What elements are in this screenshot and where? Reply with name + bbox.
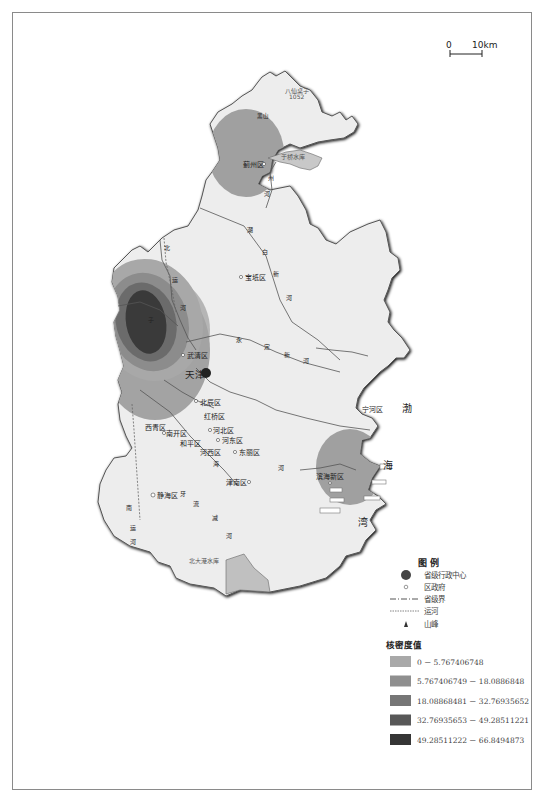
svg-text:静海区: 静海区: [157, 491, 178, 500]
svg-text:蓟州区: 蓟州区: [243, 160, 264, 169]
svg-text:河: 河: [303, 357, 309, 364]
density-range-label: 49.28511222 － 66.8494873: [417, 736, 524, 745]
svg-text:减: 减: [212, 514, 218, 522]
svg-text:南: 南: [126, 504, 132, 511]
map-canvas: 0 10km: [0, 0, 538, 797]
svg-text:永: 永: [236, 336, 242, 343]
svg-text:新: 新: [273, 270, 279, 278]
svg-text:河: 河: [226, 532, 232, 539]
district-hongqiao: 红桥区: [204, 412, 225, 421]
reservoir-yuqiao-label: 于桥水库: [281, 153, 305, 161]
density-swatch: [390, 734, 411, 745]
svg-text:北: 北: [164, 244, 170, 252]
district-nankai: 南开区: [166, 429, 187, 438]
svg-text:运: 运: [172, 276, 178, 284]
svg-text:牙: 牙: [180, 490, 186, 498]
density-class-3: 18.08868481 － 32.76935652: [390, 695, 529, 706]
svg-text:渤: 渤: [402, 402, 412, 414]
district-hebei: 河北区: [208, 427, 234, 435]
scale-distance-label: 10km: [472, 40, 497, 50]
svg-text:西青区: 西青区: [145, 423, 166, 432]
scale-zero-label: 0: [446, 40, 452, 50]
svg-text:河东区: 河东区: [222, 436, 243, 445]
district-ninghe: 宁河区: [362, 405, 383, 414]
density-legend: 0 － 5.7674067485.767406749 － 18.08868481…: [390, 656, 529, 745]
svg-text:海: 海: [383, 459, 393, 471]
svg-text:南开区: 南开区: [166, 429, 187, 438]
density-range-label: 0 － 5.767406748: [417, 658, 484, 667]
legend-item-mountain-peak: 山峰: [404, 619, 439, 629]
density-class-4: 32.76935653 － 49.28511221: [390, 715, 529, 726]
density-range-label: 32.76935653 － 49.28511221: [417, 716, 529, 725]
density-class-1: 0 － 5.767406748: [390, 656, 484, 667]
capital-label: 天津: [185, 369, 205, 380]
svg-text:河: 河: [278, 464, 284, 471]
svg-text:津南区: 津南区: [226, 478, 247, 487]
svg-text:流: 流: [193, 500, 199, 508]
svg-text:宁河区: 宁河区: [362, 405, 383, 414]
legend-item-canal: 运河: [390, 607, 439, 616]
mountain-peak-icon: [404, 621, 408, 627]
svg-text:湾: 湾: [358, 516, 368, 528]
svg-text:山峰: 山峰: [424, 619, 439, 629]
density-class-2: 5.767406749 － 18.0886848: [390, 676, 524, 687]
density-class-5: 49.28511222 － 66.8494873: [390, 734, 524, 745]
district-jinnan: 津南区: [226, 478, 251, 487]
peak-heishan: 黑山: [257, 112, 269, 120]
svg-text:河北区: 河北区: [213, 427, 234, 435]
legend-title: 图 例: [418, 557, 439, 568]
density-swatch: [390, 676, 411, 687]
density-range-label: 5.767406749 － 18.0886848: [417, 677, 524, 686]
svg-text:海: 海: [213, 460, 219, 468]
svg-text:和平区: 和平区: [180, 439, 201, 448]
svg-text:区政府: 区政府: [424, 582, 446, 592]
svg-text:武清区: 武清区: [187, 351, 208, 360]
legend-item-provincial-boundary: 省级界: [390, 594, 446, 604]
svg-text:滨海新区: 滨海新区: [316, 472, 344, 481]
svg-text:红桥区: 红桥区: [204, 412, 225, 421]
scale-bar: 0 10km: [446, 40, 497, 57]
svg-text:北辰区: 北辰区: [200, 399, 221, 407]
svg-text:河: 河: [180, 304, 186, 311]
svg-text:省级行政中心: 省级行政中心: [424, 570, 467, 580]
svg-text:河西区: 河西区: [200, 449, 221, 457]
district-hexi: 河西区: [200, 449, 221, 457]
svg-text:运河: 运河: [424, 607, 439, 616]
svg-text:定: 定: [264, 343, 270, 351]
svg-text:省级界: 省级界: [424, 594, 446, 604]
svg-text:宝坻区: 宝坻区: [245, 273, 266, 282]
svg-text:河: 河: [130, 538, 136, 545]
svg-text:潮: 潮: [247, 226, 253, 234]
district-government-icon: [404, 585, 408, 589]
density-swatch: [390, 715, 411, 726]
district-heping: 和平区: [180, 439, 201, 448]
legend-item-provincial-capital: 省级行政中心: [401, 570, 467, 580]
density-range-label: 18.08868481 － 32.76935652: [417, 697, 529, 706]
svg-text:东丽区: 东丽区: [239, 448, 260, 457]
svg-text:河: 河: [264, 190, 270, 197]
provincial-capital-icon: [401, 570, 411, 580]
legend: 图 例 省级行政中心 区政府 省级界 运河 山峰 核密度值 0 － 5.7674…: [386, 557, 529, 745]
density-legend-title: 核密度值: [386, 640, 422, 650]
svg-text:河: 河: [286, 294, 292, 301]
svg-text:白: 白: [262, 248, 268, 256]
svg-text:1052: 1052: [289, 93, 304, 100]
reservoir-beidagang-label: 北大港水库: [189, 557, 219, 565]
svg-text:运: 运: [130, 524, 136, 532]
svg-text:子: 子: [148, 316, 154, 323]
legend-item-district-government: 区政府: [404, 582, 446, 592]
density-jizhou: [208, 109, 284, 197]
district-jizhou: 蓟州区: [243, 160, 266, 169]
density-swatch: [390, 656, 411, 667]
svg-text:新: 新: [284, 351, 290, 359]
density-swatch: [390, 695, 411, 706]
svg-text:州: 州: [268, 174, 274, 181]
